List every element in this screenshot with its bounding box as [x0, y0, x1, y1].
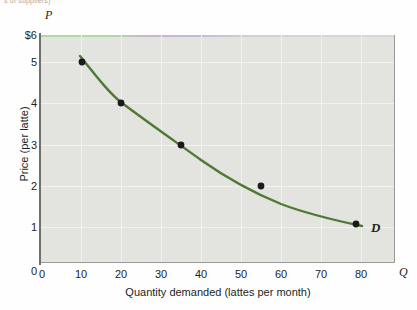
x-tick-label: 10	[61, 268, 101, 280]
price-axis-symbol: P	[45, 9, 52, 21]
plot-area	[41, 35, 395, 263]
y-tick-label: 5	[7, 57, 37, 68]
y-tick-label: $6	[7, 30, 37, 41]
demand-curve-label: D	[371, 221, 380, 234]
x-tick-label: 30	[141, 268, 181, 280]
y-tick-label: 1	[7, 222, 37, 233]
demand-curve-figure: s of suppliers) P D $6 5 4 3 2 1 0 0	[0, 0, 417, 310]
x-tick-label: 60	[261, 268, 301, 280]
x-tick-label: 70	[301, 268, 341, 280]
x-tick-label: 0	[22, 268, 62, 280]
x-tick-label: 20	[101, 268, 141, 280]
plot-top-tint	[41, 35, 394, 37]
gridline-horizontal	[41, 186, 394, 187]
quantity-axis-symbol: Q	[399, 266, 408, 278]
gridline-horizontal	[41, 62, 394, 63]
x-axis-title: Quantity demanded (lattes per month)	[41, 286, 395, 298]
gridline-horizontal	[41, 103, 394, 104]
gridline-horizontal	[41, 227, 394, 228]
x-tick-label: 40	[181, 268, 221, 280]
y-axis-title: Price (per latte)	[18, 79, 30, 209]
gridline-horizontal	[41, 145, 394, 146]
x-tick-label: 80	[341, 268, 381, 280]
x-tick-label: 50	[221, 268, 261, 280]
